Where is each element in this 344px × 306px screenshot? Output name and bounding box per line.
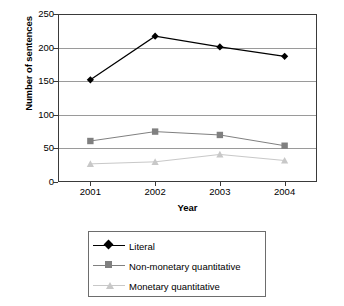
- data-point-marker: [217, 132, 223, 138]
- x-tick-label: 2004: [262, 186, 308, 197]
- data-point-marker: [281, 53, 288, 60]
- y-tick-label: 150: [14, 76, 54, 86]
- data-point-marker: [216, 43, 223, 50]
- y-tick-label: 250: [14, 9, 54, 19]
- y-tick-label: 200: [14, 43, 54, 53]
- legend-marker: [104, 240, 114, 250]
- diamond-marker-icon: [89, 237, 129, 255]
- x-tick-label: 2001: [67, 186, 113, 197]
- series-2: [87, 128, 288, 149]
- data-point-marker: [281, 143, 287, 149]
- x-tick-label: 2002: [132, 186, 178, 197]
- y-tick-mark: [53, 182, 58, 183]
- legend-marker: [105, 261, 112, 268]
- chart-legend: LiteralNon-monetary quantitativeMonetary…: [88, 231, 266, 297]
- series-3: [87, 151, 288, 167]
- data-point-marker: [152, 33, 159, 40]
- data-point-marker: [87, 138, 93, 144]
- legend-label: Monetary quantitative: [129, 281, 220, 292]
- legend-item-3[interactable]: Monetary quantitative: [89, 276, 265, 296]
- line-chart: Number of sentences 050100150200250 2001…: [0, 0, 344, 306]
- x-axis-title: Year: [58, 202, 317, 213]
- data-series-layer: [58, 14, 317, 182]
- data-point-marker: [87, 76, 94, 83]
- data-point-marker: [216, 151, 223, 158]
- legend-label: Non-monetary quantitative: [129, 261, 240, 272]
- y-tick-label: 100: [14, 110, 54, 120]
- square-marker-icon: [89, 257, 129, 275]
- y-axis-title: Number of sentences: [23, 0, 34, 144]
- legend-item-2[interactable]: Non-monetary quantitative: [89, 256, 265, 276]
- data-point-marker: [152, 128, 158, 134]
- y-tick-label: 50: [14, 143, 54, 153]
- triangle-marker-icon: [89, 277, 129, 295]
- series-line: [90, 36, 284, 80]
- legend-label: Literal: [129, 241, 155, 252]
- legend-marker: [106, 282, 114, 289]
- series-line: [90, 132, 284, 146]
- series-1: [87, 33, 288, 84]
- y-tick-label: 0: [14, 177, 54, 187]
- series-line: [90, 154, 284, 163]
- legend-item-1[interactable]: Literal: [89, 236, 265, 256]
- x-tick-label: 2003: [197, 186, 243, 197]
